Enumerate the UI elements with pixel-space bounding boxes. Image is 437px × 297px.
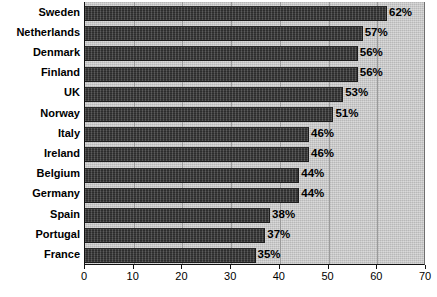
x-tick-label: 10 (118, 270, 148, 283)
bar-row (85, 125, 424, 145)
x-tick-label: 0 (69, 270, 99, 283)
bar-row (85, 165, 424, 185)
category-label: Italy (0, 127, 80, 140)
category-label: Spain (0, 208, 80, 221)
category-label: Germany (0, 187, 80, 200)
bar (85, 107, 333, 122)
bar-row (85, 206, 424, 226)
bar (85, 168, 299, 183)
value-label: 51% (335, 107, 358, 120)
category-label: Finland (0, 66, 80, 79)
plot-area (84, 2, 425, 265)
bar (85, 46, 358, 61)
value-label: 56% (360, 66, 383, 79)
bar (85, 248, 256, 263)
bar (85, 67, 358, 82)
value-label: 53% (345, 86, 368, 99)
bar (85, 87, 343, 102)
x-tick-mark-30 (230, 265, 231, 269)
value-label: 62% (389, 6, 412, 19)
category-label: Sweden (0, 6, 80, 19)
bar-row (85, 105, 424, 125)
category-label: Netherlands (0, 26, 80, 39)
bar-chart: SwedenNetherlandsDenmarkFinlandUKNorwayI… (0, 0, 437, 297)
x-tick-label: 70 (410, 270, 437, 283)
category-label: Norway (0, 107, 80, 120)
value-label: 57% (365, 26, 388, 39)
bar (85, 6, 387, 21)
x-tick-mark-20 (181, 265, 182, 269)
x-tick-label: 20 (166, 270, 196, 283)
bar (85, 26, 363, 41)
value-label: 37% (267, 228, 290, 241)
value-label: 44% (301, 167, 324, 180)
value-label: 46% (311, 147, 334, 160)
category-label: UK (0, 86, 80, 99)
x-tick-mark-0 (84, 265, 85, 269)
value-label: 38% (272, 208, 295, 221)
x-tick-mark-70 (425, 265, 426, 269)
bar-row (85, 226, 424, 246)
x-tick-label: 60 (361, 270, 391, 283)
category-label: Portugal (0, 228, 80, 241)
category-label: Denmark (0, 46, 80, 59)
category-label: Ireland (0, 147, 80, 160)
category-label: Belgium (0, 167, 80, 180)
value-label: 56% (360, 46, 383, 59)
bar-row (85, 246, 424, 265)
value-label: 35% (258, 248, 281, 261)
bar-row (85, 4, 424, 24)
bar (85, 188, 299, 203)
bar-row (85, 84, 424, 104)
bar (85, 147, 309, 162)
value-label: 44% (301, 187, 324, 200)
x-tick-mark-60 (376, 265, 377, 269)
bar-row (85, 145, 424, 165)
bar-row (85, 185, 424, 205)
value-label: 46% (311, 127, 334, 140)
bar (85, 208, 270, 223)
x-tick-mark-10 (133, 265, 134, 269)
x-tick-label: 40 (264, 270, 294, 283)
x-tick-mark-50 (328, 265, 329, 269)
chart-caption (2, 289, 435, 297)
x-tick-mark-40 (279, 265, 280, 269)
bar (85, 228, 265, 243)
x-tick-label: 30 (215, 270, 245, 283)
x-tick-label: 50 (313, 270, 343, 283)
category-label: France (0, 248, 80, 261)
bar (85, 127, 309, 142)
